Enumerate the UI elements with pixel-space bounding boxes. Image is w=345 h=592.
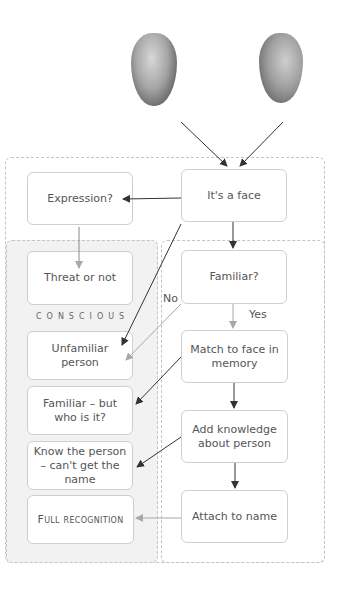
node-familiar-but-who: Familiar – but who is it? xyxy=(27,386,133,435)
node-know-the-person-label: Know the person – can't get the name xyxy=(32,445,128,487)
node-unfamiliar-person: Unfamiliar person xyxy=(27,331,133,380)
edge-label-yes: Yes xyxy=(249,308,267,321)
node-unfamiliar-person-label: Unfamiliar person xyxy=(45,342,115,370)
node-full-recognition: Full recognition xyxy=(27,495,134,544)
node-add-knowledge-label: Add knowledge about person xyxy=(186,423,283,451)
side-view-face-image xyxy=(259,33,303,103)
node-full-recognition-label: Full recognition xyxy=(38,513,124,527)
node-threat-or-not-label: Threat or not xyxy=(44,271,116,285)
node-match-to-face-label: Match to face in memory xyxy=(186,343,283,371)
node-its-a-face-label: It's a face xyxy=(207,189,260,203)
front-view-face-image xyxy=(131,33,177,106)
node-add-knowledge: Add knowledge about person xyxy=(181,410,288,463)
node-familiar-but-who-label: Familiar – but who is it? xyxy=(40,397,120,425)
node-threat-or-not: Threat or not xyxy=(27,251,133,305)
node-expression-label: Expression? xyxy=(47,192,113,206)
conscious-label: CONSCIOUS xyxy=(36,312,129,321)
node-know-the-person: Know the person – can't get the name xyxy=(27,441,133,490)
node-familiar-question: Familiar? xyxy=(181,250,287,304)
node-expression: Expression? xyxy=(27,172,133,225)
node-attach-to-name: Attach to name xyxy=(181,490,288,543)
node-match-to-face: Match to face in memory xyxy=(181,330,288,383)
node-its-a-face: It's a face xyxy=(181,169,287,222)
node-attach-to-name-label: Attach to name xyxy=(192,510,277,524)
node-familiar-question-label: Familiar? xyxy=(209,270,258,284)
edge-label-no: No xyxy=(163,292,178,305)
